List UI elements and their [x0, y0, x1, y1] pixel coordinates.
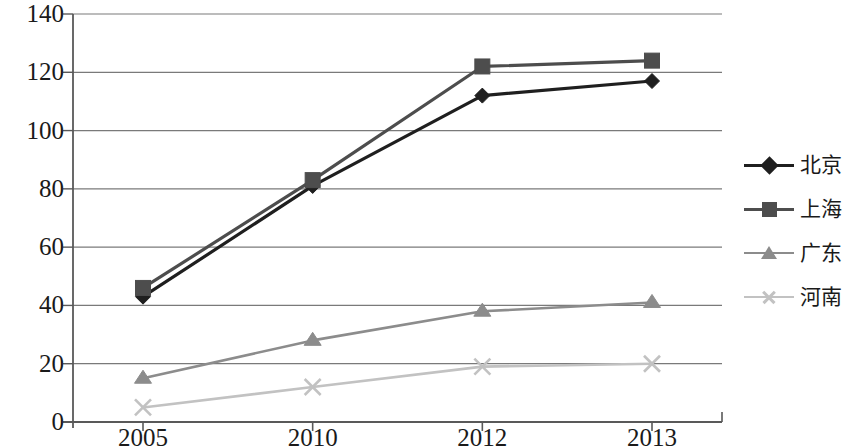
- x-axis-tick-label: 2013: [592, 424, 712, 446]
- legend-marker-triangle-icon: [761, 246, 777, 259]
- legend-item-label: 北京: [794, 154, 842, 176]
- data-point-marker: [475, 59, 490, 74]
- y-axis-tick-label: 120: [4, 59, 64, 84]
- y-axis-tick-labels: 140120100806040200: [0, 0, 64, 446]
- y-axis-tick-label: 20: [4, 351, 64, 376]
- legend-item-1[interactable]: 北京: [744, 143, 861, 187]
- data-point-marker: [305, 173, 320, 188]
- legend-item-label: 河南: [794, 286, 842, 308]
- y-axis-tick-label: 140: [4, 1, 64, 26]
- gridlines: [73, 14, 722, 422]
- legend-marker-cross-icon: [761, 289, 777, 305]
- y-axis-tick-label: 100: [4, 118, 64, 143]
- legend-key-swatch: [744, 198, 794, 220]
- series-line: [143, 303, 652, 379]
- legend-key-swatch: [744, 242, 794, 264]
- series-line: [143, 61, 652, 288]
- legend-marker-diamond-icon: [760, 156, 778, 174]
- y-axis-tick-label: 40: [4, 292, 64, 317]
- x-axis-tick-label: 2010: [253, 424, 373, 446]
- axis-lines: [63, 14, 722, 431]
- x-axis-tick-label: 2005: [83, 424, 203, 446]
- chart-canvas: [0, 0, 861, 446]
- legend-item-label: 广东: [794, 242, 842, 264]
- series-markers: [135, 53, 661, 415]
- data-point-marker: [644, 294, 661, 307]
- chart-legend: 北京上海广东河南: [744, 143, 861, 319]
- data-point-marker: [645, 74, 660, 89]
- legend-item-label: 上海: [794, 198, 842, 220]
- data-point-marker: [475, 88, 490, 103]
- legend-item-3[interactable]: 广东: [744, 231, 861, 275]
- legend-item-4[interactable]: 河南: [744, 275, 861, 319]
- data-point-marker: [136, 280, 151, 295]
- legend-marker-square-icon: [762, 202, 777, 217]
- y-axis-tick-label: 60: [4, 234, 64, 259]
- series-lines: [143, 61, 652, 408]
- x-axis-tick-labels: 2005201020122013: [0, 424, 861, 446]
- x-axis-tick-label: 2012: [422, 424, 542, 446]
- legend-key-swatch: [744, 154, 794, 176]
- legend-item-2[interactable]: 上海: [744, 187, 861, 231]
- data-point-marker: [645, 53, 660, 68]
- line-chart: 140120100806040200 2005201020122013 北京上海…: [0, 0, 861, 446]
- y-axis-tick-label: 80: [4, 176, 64, 201]
- series-line: [143, 364, 652, 408]
- legend-key-swatch: [744, 286, 794, 308]
